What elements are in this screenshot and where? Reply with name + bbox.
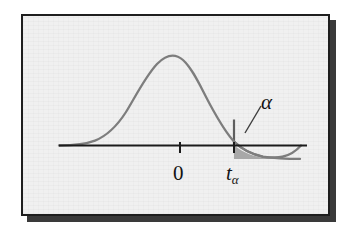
axis-label-critical-value: tα bbox=[226, 163, 239, 186]
axis-label-origin: 0 bbox=[173, 163, 184, 184]
alpha-leader-line bbox=[245, 106, 261, 133]
critical-value-subscript: α bbox=[232, 172, 239, 187]
figure-page: 0 tα α bbox=[0, 0, 353, 239]
tail-area-label: α bbox=[261, 92, 272, 113]
figure-frame: 0 tα α bbox=[21, 14, 330, 216]
